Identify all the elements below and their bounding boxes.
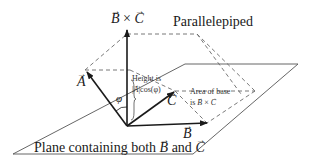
height-label: Height is |A|cos(φ) <box>132 75 161 94</box>
parallelepiped-diagram: B × C Parallelepiped A φ Height is |A|co… <box>0 0 309 162</box>
phi-label: φ <box>116 93 122 104</box>
plane-label: Plane containing both B and C <box>34 141 205 155</box>
vector-b <box>127 123 207 126</box>
title-label: Parallelepiped <box>173 15 253 29</box>
phi-angle-arc <box>116 107 127 111</box>
vector-a-label: A <box>77 75 86 89</box>
parallelepiped-dashed-edges <box>85 34 255 123</box>
base-area-label: Area of base is B × C <box>190 88 230 107</box>
vector-c-label: C <box>167 94 176 108</box>
cross-product-label: B × C <box>111 12 144 26</box>
vector-b-label: B <box>183 127 192 141</box>
